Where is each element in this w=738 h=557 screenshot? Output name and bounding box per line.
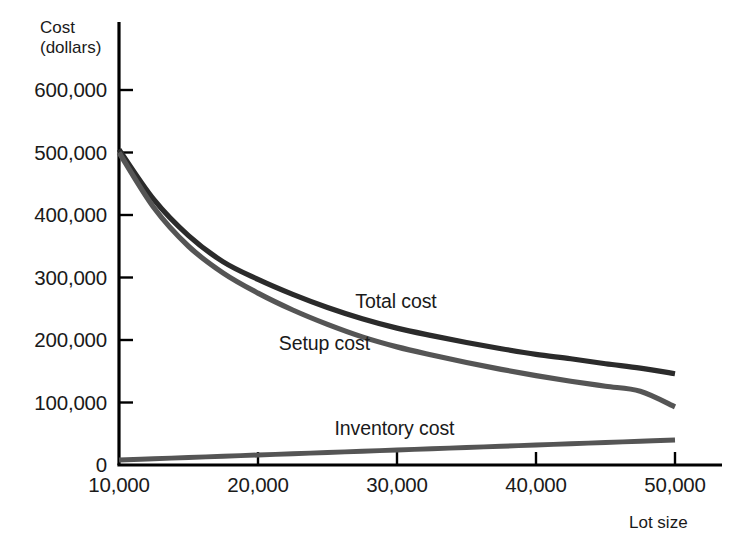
series-label-total-cost: Total cost: [355, 290, 436, 313]
series-label-inventory-cost: Inventory cost: [334, 417, 454, 440]
y-tick-label-500000: 500,000: [0, 141, 107, 165]
x-tick-label-10000: 10,000: [88, 473, 150, 497]
y-tick-label-300000: 300,000: [0, 266, 107, 290]
y-tick-label-100000: 100,000: [0, 391, 107, 415]
series-line-setup-cost: [119, 153, 675, 407]
x-tick-label-20000: 20,000: [227, 473, 289, 497]
x-axis-title: Lot size: [629, 513, 688, 533]
y-axis-title-line2: (dollars): [40, 38, 101, 58]
y-axis-title-line1: Cost: [40, 18, 101, 38]
y-tick-label-400000: 400,000: [0, 203, 107, 227]
axis-group: [117, 22, 722, 465]
x-tick-label-40000: 40,000: [505, 473, 567, 497]
series-line-total-cost: [119, 149, 675, 373]
chart-figure: 0100,000200,000300,000400,000500,000600,…: [0, 0, 738, 557]
x-tick-label-50000: 50,000: [644, 473, 706, 497]
series-label-setup-cost: Setup cost: [279, 332, 370, 355]
y-tick-label-600000: 600,000: [0, 78, 107, 102]
y-axis-title: Cost (dollars): [40, 18, 101, 57]
y-tick-label-200000: 200,000: [0, 328, 107, 352]
x-tick-label-30000: 30,000: [366, 473, 428, 497]
